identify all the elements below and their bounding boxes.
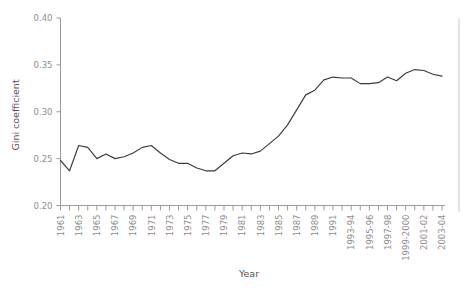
x-tick-label: 1969: [128, 215, 138, 237]
x-tick-label: 1987: [292, 215, 302, 237]
x-tick-label: 1981: [237, 215, 247, 237]
x-tick-label: 1985: [274, 215, 284, 237]
x-tick-label: 1977: [201, 215, 211, 237]
x-axis: 1961196319651967196919711973197519771979…: [56, 206, 448, 261]
y-tick-label: 0.25: [34, 154, 53, 164]
x-tick-label: 1991: [328, 215, 338, 237]
y-tick-label: 0.30: [34, 107, 53, 117]
x-tick-label: 1971: [147, 215, 157, 237]
x-tick-label: 1983: [256, 215, 266, 237]
y-axis: 0.200.250.300.350.40: [34, 13, 61, 211]
x-tick-label: 1967: [110, 215, 120, 237]
x-tick-label: 1993-94: [346, 215, 356, 251]
x-tick-label: 1995-96: [365, 215, 375, 251]
y-tick-label: 0.35: [34, 60, 53, 70]
x-tick-label: 2001-02: [419, 215, 429, 251]
x-tick-label: 1965: [92, 215, 102, 237]
x-tick-label: 1997-98: [383, 215, 393, 251]
x-tick-label: 1979: [219, 215, 229, 237]
x-tick-label: 1961: [56, 215, 66, 237]
y-axis-title: Gini coefficient: [10, 79, 21, 150]
x-axis-title: Year: [238, 268, 259, 279]
gini-series-line: [61, 70, 443, 171]
x-tick-label: 1989: [310, 215, 320, 237]
x-tick-label: 1973: [165, 215, 175, 237]
x-tick-label: 1999-2000: [401, 215, 411, 261]
x-tick-label: 1963: [74, 215, 84, 237]
gini-data-line: [61, 70, 443, 171]
chart-canvas: 0.200.250.300.350.40 1961196319651967196…: [0, 0, 465, 295]
y-tick-label: 0.20: [34, 201, 53, 211]
gini-coefficient-line-chart: 0.200.250.300.350.40 1961196319651967196…: [0, 0, 465, 295]
y-tick-label: 0.40: [34, 13, 53, 23]
x-tick-label: 2003-04: [437, 215, 447, 251]
x-tick-label: 1975: [183, 215, 193, 237]
